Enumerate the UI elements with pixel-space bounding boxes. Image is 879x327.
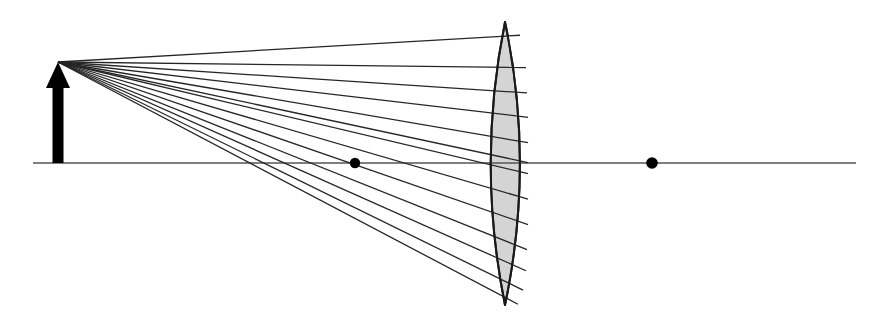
ray-diagram-canvas <box>0 0 879 327</box>
near-focal-point <box>350 158 360 168</box>
object-arrow-shaft <box>53 84 64 163</box>
optics-diagram-svg <box>0 0 879 327</box>
far-focal-point <box>646 157 658 169</box>
